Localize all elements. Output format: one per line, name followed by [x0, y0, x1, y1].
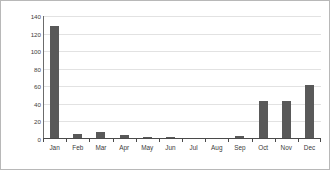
- bar: [50, 26, 59, 138]
- x-axis-tick-slot: [228, 139, 251, 143]
- bar-slot: [298, 16, 321, 138]
- bar-slot: [66, 16, 89, 138]
- x-axis-tick-label: May: [136, 144, 159, 156]
- y-axis-tick-label: 60: [21, 83, 41, 90]
- x-axis-tick-mark: [43, 139, 44, 142]
- x-axis-tick-mark-end: [320, 139, 321, 142]
- x-axis-tick-label: Sep: [228, 144, 251, 156]
- x-axis-tick-mark: [159, 139, 160, 142]
- x-axis-tick-mark: [66, 139, 67, 142]
- bar-slot: [89, 16, 112, 138]
- bar-series: [43, 16, 321, 138]
- y-axis-tick-labels: 020406080100120140: [21, 16, 41, 139]
- x-axis-tick-label: Oct: [252, 144, 275, 156]
- y-axis-tick-label: 0: [21, 136, 41, 143]
- bar: [73, 134, 82, 138]
- x-axis-tick-label: Jun: [159, 144, 182, 156]
- bar-slot: [275, 16, 298, 138]
- bar-slot: [182, 16, 205, 138]
- x-axis-tick-marks: [43, 139, 321, 143]
- x-axis-tick-slot: [205, 139, 228, 143]
- y-axis-tick-label: 100: [21, 48, 41, 55]
- x-axis-tick-slot: [275, 139, 298, 143]
- bar: [235, 136, 244, 138]
- plot-area: [43, 16, 321, 139]
- x-axis-tick-mark: [136, 139, 137, 142]
- x-axis-tick-slot: [136, 139, 159, 143]
- bar-slot: [136, 16, 159, 138]
- y-axis-tick-label: 80: [21, 65, 41, 72]
- x-axis-tick-label: Jul: [182, 144, 205, 156]
- bar-slot: [43, 16, 66, 138]
- chart-figure: Numbers of birds 020406080100120140 JanF…: [0, 0, 330, 170]
- bar: [96, 132, 105, 138]
- y-axis-tick-label: 120: [21, 30, 41, 37]
- bar: [259, 101, 268, 138]
- x-axis-tick-label: Feb: [66, 144, 89, 156]
- x-axis-tick-labels: JanFebMarAprMayJunJulAugSepOctNovDec: [43, 144, 321, 156]
- x-axis-tick-label: Dec: [298, 144, 321, 156]
- bar: [305, 85, 314, 138]
- y-axis-tick-label: 20: [21, 118, 41, 125]
- bar-slot: [228, 16, 251, 138]
- x-axis-tick-mark: [298, 139, 299, 142]
- x-axis-tick-slot: [159, 139, 182, 143]
- bar: [120, 135, 129, 139]
- x-axis-tick-label: Jan: [43, 144, 66, 156]
- bar: [143, 137, 152, 138]
- x-axis-tick-mark: [228, 139, 229, 142]
- x-axis-tick-mark: [275, 139, 276, 142]
- x-axis-tick-mark: [252, 139, 253, 142]
- x-axis-tick-slot: [43, 139, 66, 143]
- bar: [166, 137, 175, 138]
- y-axis-tick-label: 40: [21, 100, 41, 107]
- bar: [282, 101, 291, 138]
- x-axis-tick-slot: [113, 139, 136, 143]
- x-axis-tick-slot: [182, 139, 205, 143]
- x-axis-tick-slot: [66, 139, 89, 143]
- x-axis-tick-label: Apr: [113, 144, 136, 156]
- bar-slot: [252, 16, 275, 138]
- x-axis-tick-slot: [298, 139, 321, 143]
- y-axis-tick-label: 140: [21, 13, 41, 20]
- x-axis-tick-mark: [89, 139, 90, 142]
- x-axis-tick-label: Aug: [205, 144, 228, 156]
- bar-slot: [159, 16, 182, 138]
- x-axis-tick-label: Mar: [89, 144, 112, 156]
- x-axis-tick-mark: [205, 139, 206, 142]
- x-axis-tick-slot: [89, 139, 112, 143]
- x-axis-tick-slot: [252, 139, 275, 143]
- bar-slot: [113, 16, 136, 138]
- x-axis-tick-label: Nov: [275, 144, 298, 156]
- x-axis-tick-mark: [182, 139, 183, 142]
- x-axis-tick-mark: [113, 139, 114, 142]
- bar-slot: [205, 16, 228, 138]
